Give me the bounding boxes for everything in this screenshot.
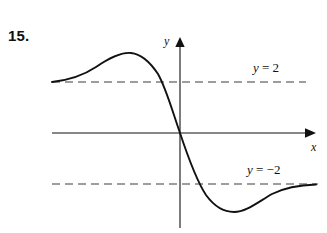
lower-asymptote-label: y = −2 [245,162,280,177]
y-axis-label: y [163,34,170,48]
figure-page: '' ''' 15. y x y = 2 y = −2 [0,0,327,233]
graph-figure: y x y = 2 y = −2 [0,0,327,233]
x-axis-label: x [310,140,317,154]
x-axis [52,128,316,138]
upper-asymptote-label: y = 2 [251,60,279,75]
